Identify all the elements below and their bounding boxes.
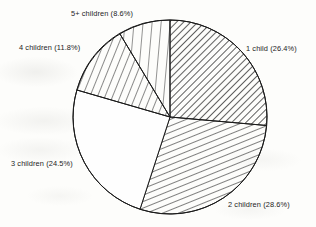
- pie-chart: 1 child (26.4%) 2 children (28.6%) 3 chi…: [0, 0, 316, 227]
- pie-chart-svg: [0, 0, 316, 227]
- pie-label-2-children: 2 children (28.6%): [228, 200, 290, 209]
- pie-slice-1-child: [170, 20, 267, 126]
- pie-label-1-child: 1 child (26.4%): [246, 44, 297, 53]
- pie-label-3-children: 3 children (24.5%): [11, 159, 73, 168]
- pie-label-4-children: 4 children (11.8%): [19, 43, 80, 52]
- pie-label-5-plus-children: 5+ children (8.6%): [71, 9, 133, 18]
